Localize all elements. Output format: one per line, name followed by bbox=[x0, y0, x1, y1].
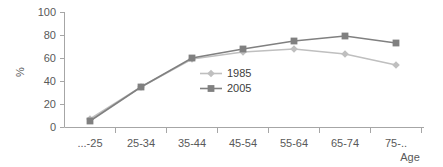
x-tick-label-6: 75-.. bbox=[385, 137, 407, 149]
y-tick-label-20: 20 bbox=[44, 98, 56, 110]
x-tick-label-3: 45-54 bbox=[229, 137, 257, 149]
y-tick-label-80: 80 bbox=[44, 29, 56, 41]
y-tick-label-60: 60 bbox=[44, 52, 56, 64]
x-axis-title: Age bbox=[400, 151, 420, 163]
x-tick-label-0: ...-25 bbox=[77, 137, 102, 149]
x-tick-label-5: 65-74 bbox=[331, 137, 359, 149]
chart-canvas: 100 80 60 40 20 0 % bbox=[0, 0, 443, 167]
y-axis-title: % bbox=[14, 67, 26, 77]
x-tick-label-4: 55-64 bbox=[280, 137, 308, 149]
legend-marker-square-icon bbox=[208, 85, 215, 92]
x-tick-label-2: 35-44 bbox=[178, 137, 206, 149]
legend-label-2005: 2005 bbox=[227, 82, 251, 94]
x-tick-label-1: 25-34 bbox=[127, 137, 155, 149]
y-tick-label-40: 40 bbox=[44, 75, 56, 87]
chart-background bbox=[0, 0, 443, 167]
line-chart: 100 80 60 40 20 0 % bbox=[0, 0, 443, 167]
legend-label-1985: 1985 bbox=[227, 67, 251, 79]
y-tick-label-0: 0 bbox=[50, 121, 56, 133]
y-tick-label-100: 100 bbox=[38, 6, 56, 18]
